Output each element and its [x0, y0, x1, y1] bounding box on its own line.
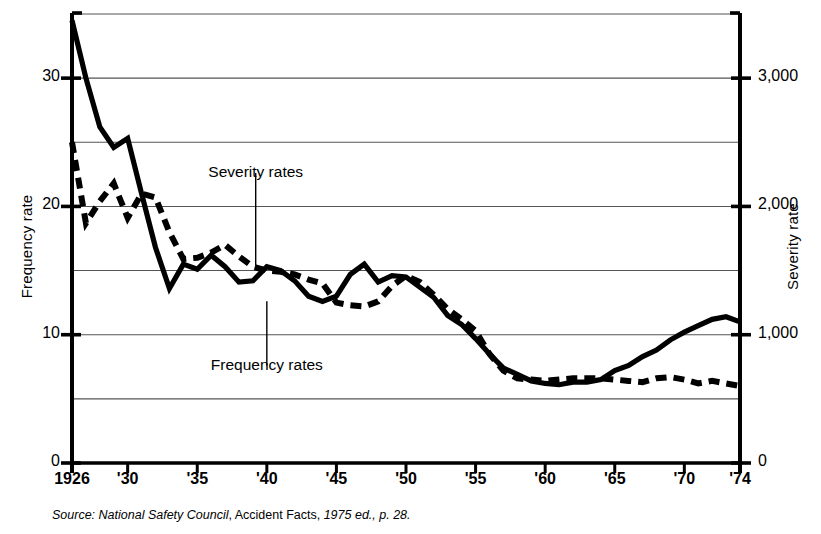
severity-rates-label: Severity rates	[208, 163, 303, 181]
y-tick-right-2000: 2,000	[758, 195, 798, 213]
chart-plot-area	[0, 0, 821, 534]
x-tick-1955: '55	[465, 470, 487, 488]
y-tick-left-30: 30	[42, 67, 60, 85]
source-middle: , Accident Facts,	[228, 508, 323, 522]
y-tick-right-1000: 1,000	[758, 324, 798, 342]
chart-figure: Frequency rate Severity rate 0102030 01,…	[0, 0, 821, 534]
y-tick-left-10: 10	[42, 324, 60, 342]
x-tick-1945: '45	[326, 470, 348, 488]
x-tick-1935: '35	[186, 470, 208, 488]
x-tick-1974: '74	[729, 470, 751, 488]
y-axis-left-title: Frequency rate	[18, 177, 35, 317]
y-tick-right-3000: 3,000	[758, 67, 798, 85]
x-tick-1950: '50	[395, 470, 417, 488]
source-suffix: 1975 ed., p. 28.	[324, 508, 411, 522]
x-tick-1940: '40	[256, 470, 278, 488]
y-tick-left-20: 20	[42, 195, 60, 213]
frequency-rates-label: Frequency rates	[211, 356, 323, 374]
y-tick-right-0: 0	[758, 452, 767, 470]
x-tick-1960: '60	[534, 470, 556, 488]
x-tick-1926: 1926	[54, 470, 90, 488]
x-tick-1930: '30	[117, 470, 139, 488]
source-prefix: Source: National Safety Council	[52, 508, 228, 522]
y-tick-left-0: 0	[51, 452, 60, 470]
x-tick-1965: '65	[604, 470, 626, 488]
source-caption: Source: National Safety Council, Acciden…	[52, 508, 411, 522]
x-tick-1970: '70	[674, 470, 696, 488]
